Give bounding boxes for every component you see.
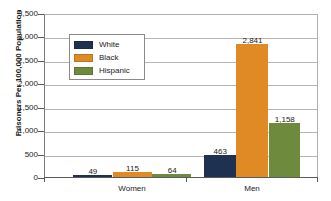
legend-swatch-black <box>74 54 93 62</box>
gridline <box>45 109 317 110</box>
y-tick-label: 1,000 <box>0 127 38 135</box>
y-tick-label: 3,500 <box>0 10 38 18</box>
y-tick-label: 2,500 <box>0 57 38 65</box>
legend-swatch-white <box>74 41 93 49</box>
x-tick-mark <box>317 178 318 182</box>
x-tick-mark <box>44 178 45 182</box>
legend-label-white: White <box>99 40 119 49</box>
bar-value-label: 1,158 <box>263 115 307 124</box>
gridline <box>45 85 317 86</box>
bar-white <box>204 155 236 177</box>
bar-chart: Prisoners Per 100,000 Population 05001,0… <box>0 0 331 201</box>
x-axis-line <box>44 177 318 178</box>
legend-item-black: Black <box>74 51 140 64</box>
legend-item-white: White <box>74 38 140 51</box>
bar-black <box>236 44 268 177</box>
y-tick-label: 500 <box>0 151 38 159</box>
x-axis-group-label: Women <box>92 184 172 194</box>
y-tick-label: 3,000 <box>0 33 38 41</box>
bar-value-label: 64 <box>146 166 198 175</box>
legend-label-hispanic: Hispanic <box>99 66 130 75</box>
legend-item-hispanic: Hispanic <box>74 64 140 77</box>
x-axis-group-label: Men <box>212 184 292 194</box>
x-tick-mark <box>186 178 187 182</box>
y-tick-label: 0 <box>0 174 38 182</box>
legend: White Black Hispanic <box>69 34 145 80</box>
legend-label-black: Black <box>99 53 119 62</box>
y-tick-label: 2,000 <box>0 80 38 88</box>
y-tick-label: 1,500 <box>0 104 38 112</box>
bar-value-label: 2,841 <box>230 36 274 45</box>
bar-hispanic <box>269 123 301 177</box>
legend-swatch-hispanic <box>74 67 93 75</box>
